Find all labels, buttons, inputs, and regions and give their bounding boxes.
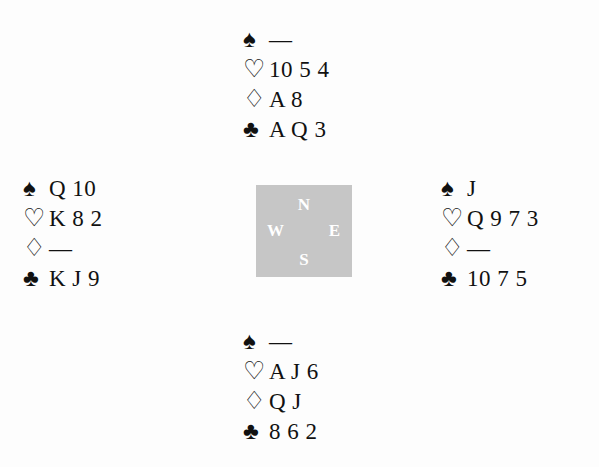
hand-east-clubs-row: ♣ 10 7 5 xyxy=(441,263,539,293)
hand-north-spades-row: ♠ — xyxy=(243,24,330,54)
hand-east-hearts-row: ♡ Q 9 7 3 xyxy=(441,203,539,233)
hand-north-spades: — xyxy=(269,25,292,55)
hand-west-diamonds: — xyxy=(49,234,72,264)
hand-east-spades: J xyxy=(467,174,476,204)
diamond-icon: ♢ xyxy=(441,233,467,263)
hand-west-clubs-row: ♣ K J 9 xyxy=(23,263,103,293)
heart-icon: ♡ xyxy=(243,54,269,84)
hand-north-diamonds-row: ♢ A 8 xyxy=(243,84,330,114)
hand-east-diamonds-row: ♢ — xyxy=(441,233,539,263)
hand-west-diamonds-row: ♢ — xyxy=(23,233,103,263)
hand-south-diamonds-row: ♢ Q J xyxy=(243,386,319,416)
diamond-icon: ♢ xyxy=(23,233,49,263)
hand-north-clubs-row: ♣ A Q 3 xyxy=(243,114,330,144)
hand-north: ♠ — ♡ 10 5 4 ♢ A 8 ♣ A Q 3 xyxy=(243,24,330,144)
hand-south-hearts-row: ♡ A J 6 xyxy=(243,356,319,386)
spade-icon: ♠ xyxy=(441,173,467,203)
hand-south: ♠ — ♡ A J 6 ♢ Q J ♣ 8 6 2 xyxy=(243,326,319,446)
hand-north-hearts-row: ♡ 10 5 4 xyxy=(243,54,330,84)
compass-label-west: W xyxy=(267,222,284,239)
hand-east-diamonds: — xyxy=(467,234,490,264)
hand-east-hearts: Q 9 7 3 xyxy=(467,204,539,234)
hand-north-diamonds: A 8 xyxy=(269,85,303,115)
spade-icon: ♠ xyxy=(243,24,269,54)
hand-east-spades-row: ♠ J xyxy=(441,173,539,203)
diamond-icon: ♢ xyxy=(243,84,269,114)
hand-east: ♠ J ♡ Q 9 7 3 ♢ — ♣ 10 7 5 xyxy=(441,173,539,293)
hand-south-diamonds: Q J xyxy=(269,387,302,417)
heart-icon: ♡ xyxy=(23,203,49,233)
hand-south-hearts: A J 6 xyxy=(269,357,319,387)
compass-label-south: S xyxy=(256,251,352,268)
club-icon: ♣ xyxy=(23,263,49,293)
hand-east-clubs: 10 7 5 xyxy=(467,264,528,294)
club-icon: ♣ xyxy=(243,416,269,446)
compass-label-east: E xyxy=(329,222,340,239)
compass-label-north: N xyxy=(256,196,352,213)
hand-north-clubs: A Q 3 xyxy=(269,115,326,145)
hand-west-spades: Q 10 xyxy=(49,174,96,204)
hand-south-spades-row: ♠ — xyxy=(243,326,319,356)
bridge-hand-diagram: ♠ — ♡ 10 5 4 ♢ A 8 ♣ A Q 3 ♠ Q 10 ♡ K 8 … xyxy=(0,0,599,467)
hand-west-hearts-row: ♡ K 8 2 xyxy=(23,203,103,233)
hand-west-spades-row: ♠ Q 10 xyxy=(23,173,103,203)
compass-box: N W E S xyxy=(256,185,352,277)
heart-icon: ♡ xyxy=(243,356,269,386)
hand-west-hearts: K 8 2 xyxy=(49,204,103,234)
hand-north-hearts: 10 5 4 xyxy=(269,55,330,85)
club-icon: ♣ xyxy=(243,114,269,144)
hand-south-clubs: 8 6 2 xyxy=(269,417,318,447)
diamond-icon: ♢ xyxy=(243,386,269,416)
hand-south-spades: — xyxy=(269,327,292,357)
hand-west: ♠ Q 10 ♡ K 8 2 ♢ — ♣ K J 9 xyxy=(23,173,103,293)
spade-icon: ♠ xyxy=(243,326,269,356)
hand-west-clubs: K J 9 xyxy=(49,264,100,294)
club-icon: ♣ xyxy=(441,263,467,293)
spade-icon: ♠ xyxy=(23,173,49,203)
hand-south-clubs-row: ♣ 8 6 2 xyxy=(243,416,319,446)
heart-icon: ♡ xyxy=(441,203,467,233)
